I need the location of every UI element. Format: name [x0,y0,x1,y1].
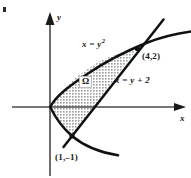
point-label-lower: (1,–1) [55,153,78,162]
point-dot-upper [135,46,140,51]
line-equation-label: x = y + 2 [115,76,150,85]
point-label-upper: (4,2) [142,52,160,61]
parabola-equation-text: x = y [82,39,102,49]
figure-container: y x x = y2 x = y + 2 (4,2) (1,–1) Ω [0,0,191,178]
x-axis-arrowhead [174,103,186,111]
y-axis-label: y [57,13,61,22]
x-axis-label: x [180,114,185,123]
figure-canvas [0,0,191,178]
scan-speck [3,7,6,12]
parabola-equation-exponent: 2 [102,37,106,44]
region-omega-label: Ω [79,76,92,88]
y-axis-arrowhead [46,12,55,25]
point-dot-lower [69,133,74,138]
parabola-equation-label: x = y2 [82,40,105,49]
